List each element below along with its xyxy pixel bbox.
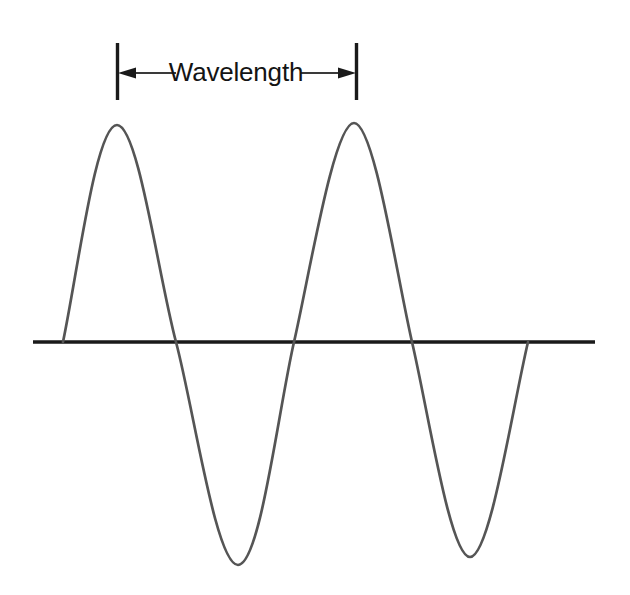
wavelength-right-arrowhead xyxy=(338,68,356,79)
wavelength-left-arrowhead xyxy=(118,68,136,79)
wavelength-label: Wavelength xyxy=(160,55,312,89)
sine-wave-path xyxy=(63,123,528,565)
wavelength-diagram: Wavelength xyxy=(0,0,630,595)
wave-diagram-canvas xyxy=(0,0,630,595)
